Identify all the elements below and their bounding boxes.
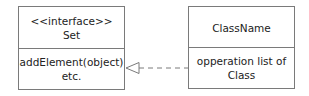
hollow-triangle-arrowhead-icon [126,63,139,74]
realization-edge [0,0,309,96]
